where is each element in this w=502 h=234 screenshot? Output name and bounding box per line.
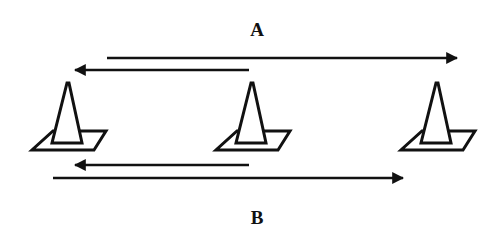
cone-1-icon	[32, 83, 106, 150]
cone-3-icon	[401, 83, 475, 150]
label-a: A	[250, 20, 264, 39]
label-b: B	[251, 208, 264, 227]
cones-layer	[32, 83, 475, 150]
cone-2-icon	[216, 83, 290, 150]
